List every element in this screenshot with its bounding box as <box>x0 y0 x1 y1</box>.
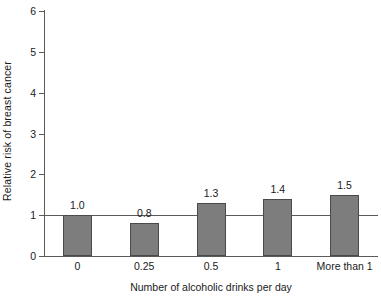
y-axis-tick-label: 4 <box>12 88 36 98</box>
y-axis-tick-label: 0 <box>12 251 36 261</box>
bar <box>130 223 159 256</box>
y-axis-tick-label: 5 <box>12 47 36 57</box>
x-axis-tick-label: More than 1 <box>305 261 381 272</box>
bar <box>330 195 359 256</box>
y-axis-tick <box>39 256 45 257</box>
bar <box>263 199 292 256</box>
bar-value-label: 1.3 <box>189 188 233 199</box>
bar-value-label: 1.4 <box>256 184 300 195</box>
y-axis-tick-label: 2 <box>12 169 36 179</box>
x-axis-line <box>44 256 378 257</box>
y-axis-tick-label: 6 <box>12 6 36 16</box>
y-axis-tick-label: 1 <box>12 210 36 220</box>
bar-value-label: 1.0 <box>55 200 99 211</box>
bar <box>63 215 92 256</box>
y-axis-tick-label: 3 <box>12 129 36 139</box>
bar-value-label: 1.5 <box>323 180 367 191</box>
bar-value-label: 0.8 <box>122 208 166 219</box>
x-axis-title: Number of alcoholic drinks per day <box>44 281 378 293</box>
bar <box>197 203 226 256</box>
plot-area <box>44 11 378 256</box>
bar-chart-figure: Relative risk of breast cancer 0123456 1… <box>0 0 381 301</box>
